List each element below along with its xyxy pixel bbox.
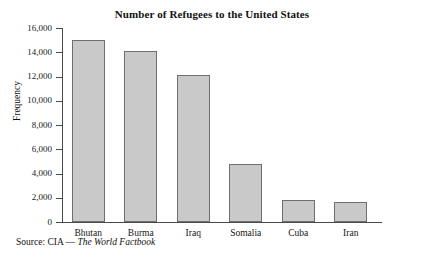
y-tick-mark (56, 222, 62, 223)
chart-figure: Number of Refugees to the United States … (0, 0, 424, 258)
source-note: Source: CIA — The World Factbook (16, 237, 155, 247)
y-tick-label: 4,000 (32, 169, 52, 178)
bar (124, 51, 157, 222)
y-tick-label: 6,000 (32, 145, 52, 154)
y-axis-label: Frequency (12, 63, 22, 139)
y-tick-label: 8,000 (32, 121, 52, 130)
y-tick-label: 0 (48, 218, 53, 227)
y-tick-label: 10,000 (27, 96, 52, 105)
x-tick-label: Cuba (282, 228, 315, 238)
x-tick-label: Somalia (229, 228, 262, 238)
y-tick-label: 14,000 (27, 48, 52, 57)
chart-title: Number of Refugees to the United States (0, 8, 424, 20)
bar (177, 75, 210, 222)
x-tick-label: Iraq (177, 228, 210, 238)
x-axis-line (62, 222, 382, 223)
bar (334, 202, 367, 222)
bar (72, 40, 105, 222)
bar (282, 200, 315, 222)
y-tick-label: 16,000 (27, 24, 52, 33)
source-prefix: Source: CIA — (16, 237, 77, 247)
x-tick-label: Iran (334, 228, 367, 238)
bar-group: Cuba (282, 28, 315, 222)
bar-group: Iran (334, 28, 367, 222)
source-publication: The World Factbook (77, 237, 155, 247)
y-tick-label: 12,000 (27, 72, 52, 81)
y-tick-label: 2,000 (32, 193, 52, 202)
bar-group: Somalia (229, 28, 262, 222)
bar-group: Bhutan (72, 28, 105, 222)
bar-group: Iraq (177, 28, 210, 222)
bar-group: Burma (124, 28, 157, 222)
plot-area: BhutanBurmaIraqSomaliaCubaIran (62, 28, 377, 222)
bar (229, 164, 262, 222)
